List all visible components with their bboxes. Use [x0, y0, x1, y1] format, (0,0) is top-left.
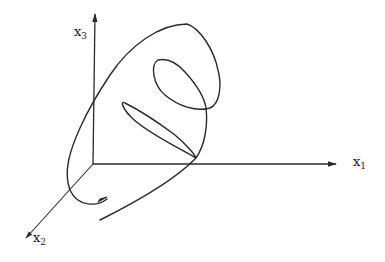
x1-axis-label: x1: [353, 155, 366, 171]
x3-axis: [93, 14, 95, 164]
phase-space-diagram: x3 x1 x2: [0, 0, 385, 262]
trajectory-curve: [67, 24, 220, 220]
diagram-canvas: [0, 0, 385, 262]
x2-axis: [26, 164, 93, 238]
inner-loop-lower: [122, 102, 196, 158]
x2-axis-label: x2: [33, 231, 46, 247]
x3-axis-label: x3: [74, 25, 87, 41]
